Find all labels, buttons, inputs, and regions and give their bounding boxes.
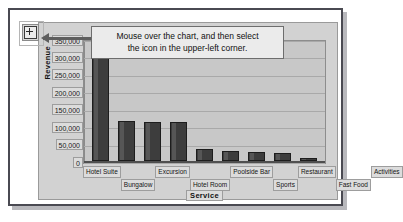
bar[interactable]	[170, 122, 187, 161]
bar[interactable]	[118, 121, 135, 161]
bar[interactable]	[274, 153, 291, 161]
bar[interactable]	[144, 122, 161, 161]
x-label-slot: Restaurant	[298, 179, 336, 191]
bar-series	[84, 41, 325, 161]
x-axis-label: Excursion	[155, 166, 190, 178]
y-axis-tick-labels: 350,000300,000250,000200,000150,000100,0…	[43, 34, 83, 170]
x-label-slot: Excursion	[155, 166, 190, 178]
tooltip-line-1: Mouse over the chart, and then select	[116, 31, 258, 43]
x-label-slot: Poolside Bar	[230, 166, 273, 178]
gridline	[84, 163, 325, 164]
x-label-slot: Fast Food	[336, 166, 371, 178]
bar[interactable]	[92, 43, 109, 162]
bar-slot	[296, 41, 322, 161]
x-label-slot: Sports	[273, 179, 298, 191]
instruction-tooltip: Mouse over the chart, and then select th…	[91, 26, 284, 59]
x-axis-label: Hotel Suite	[83, 166, 121, 178]
x-axis-labels-row-1: Hotel SuiteBungalowExcursionHotel RoomPo…	[83, 166, 326, 178]
arrow-left-icon	[41, 33, 49, 43]
x-label-slot: Hotel Suite	[83, 179, 121, 191]
bar-slot	[87, 41, 113, 161]
y-tick-label: 150,000	[52, 104, 83, 115]
y-tick-label: 0	[73, 157, 83, 168]
x-axis-line	[84, 161, 325, 163]
x-label-slot: Bungalow	[121, 166, 156, 178]
x-axis-label: Restaurant	[298, 166, 336, 178]
x-label-slot: Restaurant	[298, 166, 336, 178]
x-axis-label: Fast Food	[336, 179, 371, 191]
x-label-slot: Poolside Bar	[230, 179, 273, 191]
document-frame: Revenue 350,000300,000250,000200,000150,…	[8, 8, 343, 206]
tooltip-line-2: the icon in the upper-left corner.	[128, 43, 248, 55]
x-label-slot: Fast Food	[336, 179, 371, 191]
chart-quick-analysis-icon[interactable]	[22, 24, 39, 41]
bar-slot	[244, 41, 270, 161]
x-label-slot: Hotel Suite	[83, 166, 121, 178]
bar-slot	[218, 41, 244, 161]
y-tick-label: 50,000	[56, 139, 83, 150]
bar-slot	[139, 41, 165, 161]
x-axis-label: Poolside Bar	[230, 166, 273, 178]
x-label-slot: Excursion	[155, 179, 190, 191]
bar-slot	[113, 41, 139, 161]
x-label-slot: Bungalow	[121, 179, 156, 191]
x-axis-label: Bungalow	[121, 179, 156, 191]
x-label-slot: Activities	[371, 166, 403, 178]
y-tick-label: 200,000	[52, 87, 83, 98]
bar-slot	[191, 41, 217, 161]
x-axis-label: Sports	[273, 179, 298, 191]
bar-slot	[165, 41, 191, 161]
y-tick-label: 300,000	[52, 52, 83, 63]
bar-slot	[270, 41, 296, 161]
x-label-slot: Sports	[273, 166, 298, 178]
x-label-slot: Activities	[371, 179, 403, 191]
bar[interactable]	[222, 151, 239, 161]
x-axis-title: Service	[83, 191, 326, 200]
y-tick-label: 100,000	[52, 122, 83, 133]
x-axis-title-text: Service	[186, 190, 223, 201]
y-tick-label: 250,000	[52, 69, 83, 80]
bar[interactable]	[248, 152, 265, 161]
x-axis-label: Activities	[371, 166, 403, 178]
bar[interactable]	[196, 149, 213, 161]
plus-icon	[24, 26, 37, 39]
x-label-slot: Hotel Room	[190, 166, 230, 178]
frame-shadow-bottom	[12, 206, 347, 210]
